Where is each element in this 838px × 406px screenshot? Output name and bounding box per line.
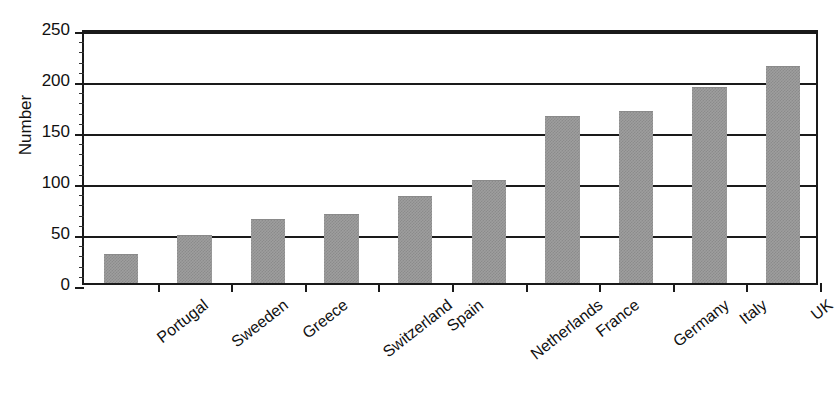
y-axis-tick xyxy=(75,287,84,289)
y-axis-minor-tick xyxy=(79,93,84,94)
y-axis-minor-tick xyxy=(79,216,84,217)
x-axis-tick xyxy=(378,283,380,292)
x-axis-tick xyxy=(231,283,233,292)
bar xyxy=(472,180,507,283)
y-axis-minor-tick xyxy=(79,256,84,257)
y-axis-tick-label: 0 xyxy=(24,276,70,293)
x-axis-tick xyxy=(158,283,160,292)
x-axis-category-label: UK xyxy=(808,296,837,324)
x-axis-tick xyxy=(673,283,675,292)
y-axis-minor-tick xyxy=(79,144,84,145)
y-axis-tick xyxy=(75,32,84,34)
gridline xyxy=(84,83,816,85)
bar xyxy=(104,254,139,283)
y-axis-minor-tick xyxy=(79,124,84,125)
y-axis-tick xyxy=(75,134,84,136)
x-axis-tick xyxy=(526,283,528,292)
y-axis-minor-tick xyxy=(79,175,84,176)
cropped-title-remnant xyxy=(150,0,670,12)
y-axis-minor-tick xyxy=(79,42,84,43)
bar xyxy=(398,196,433,283)
y-axis-minor-tick xyxy=(79,114,84,115)
y-axis-minor-tick xyxy=(79,165,84,166)
x-axis-tick xyxy=(820,283,822,292)
y-axis-tick xyxy=(75,185,84,187)
y-axis-tick-label: 150 xyxy=(24,123,70,140)
y-axis-minor-tick xyxy=(79,226,84,227)
bar xyxy=(619,111,654,283)
y-axis-tick xyxy=(75,236,84,238)
x-axis-tick xyxy=(746,283,748,292)
x-axis-category-label: Switzerland xyxy=(379,296,455,361)
x-axis-tick xyxy=(452,283,454,292)
y-axis-minor-tick xyxy=(79,205,84,206)
y-axis-tick-label: 200 xyxy=(24,72,70,89)
y-axis-minor-tick xyxy=(79,73,84,74)
y-axis-tick-label: 50 xyxy=(24,225,70,242)
bar-chart-figure: Number 050100150200250PortugalSweedenGre… xyxy=(0,0,838,406)
y-axis-tick-label: 100 xyxy=(24,174,70,191)
bar xyxy=(251,219,286,283)
y-axis-minor-tick xyxy=(79,52,84,53)
bar xyxy=(766,66,801,283)
y-axis-minor-tick xyxy=(79,277,84,278)
y-axis-minor-tick xyxy=(79,246,84,247)
x-axis-category-label: Spain xyxy=(444,296,487,335)
x-axis-tick xyxy=(599,283,601,292)
bar xyxy=(177,235,212,283)
x-axis-category-label: Greece xyxy=(299,296,351,342)
x-axis-category-label: Germany xyxy=(670,296,733,351)
y-axis-minor-tick xyxy=(79,63,84,64)
x-axis-category-label: Sweeden xyxy=(229,296,293,351)
y-axis-tick-label: 250 xyxy=(24,21,70,38)
bar xyxy=(692,87,727,283)
y-axis-tick xyxy=(75,83,84,85)
gridline xyxy=(84,32,816,34)
y-axis-minor-tick xyxy=(79,267,84,268)
y-axis-minor-tick xyxy=(79,103,84,104)
y-axis-minor-tick xyxy=(79,195,84,196)
x-axis-tick xyxy=(305,283,307,292)
y-axis-minor-tick xyxy=(79,154,84,155)
plot-area xyxy=(82,30,818,285)
x-axis-category-label: Italy xyxy=(736,296,770,328)
x-axis-category-label: Portugal xyxy=(153,296,211,347)
bar xyxy=(324,214,359,283)
bar xyxy=(545,116,580,283)
